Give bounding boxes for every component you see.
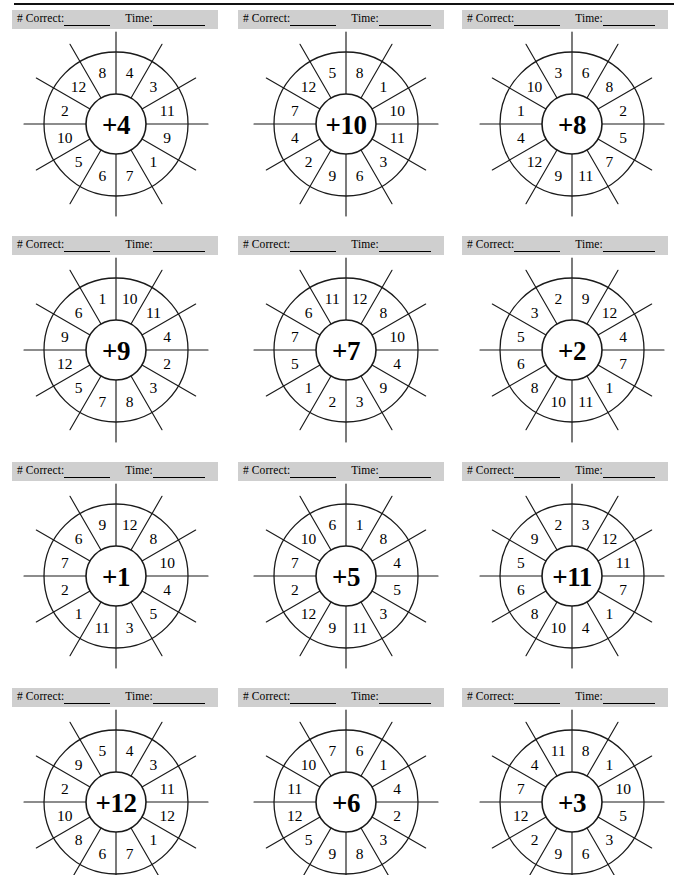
wheel-sector-number: 8: [531, 379, 539, 396]
wheel-sector-number: 3: [126, 619, 134, 636]
time-answer-blank[interactable]: [153, 13, 205, 26]
wheel-sector-number: 6: [356, 742, 364, 759]
wheel-sector-number: 11: [390, 129, 405, 146]
correct-answer-blank[interactable]: [64, 13, 110, 26]
wheel-sector-number: 4: [291, 129, 299, 146]
time-answer-blank[interactable]: [153, 239, 205, 252]
score-band-text: # Correct: Time:: [238, 239, 431, 252]
correct-answer-blank[interactable]: [514, 691, 560, 704]
time-answer-blank[interactable]: [603, 691, 655, 704]
wheel-sector-number: 6: [517, 581, 525, 598]
wheel-panel: # Correct: Time: 431191765102128+4: [0, 0, 232, 226]
wheel-sector-number: 6: [517, 355, 525, 372]
wheel-sector-number: 5: [393, 581, 401, 598]
worksheet-page: # Correct: Time: 431191765102128+4# Corr…: [0, 0, 686, 875]
wheel-plus-2: 912471111086532+2: [458, 254, 686, 452]
wheel-sector-number: 10: [389, 328, 405, 345]
wheel-sector-number: 6: [582, 845, 590, 862]
wheel-panel: # Correct: Time: 614238951211107+6: [232, 678, 458, 875]
correct-answer-blank[interactable]: [514, 239, 560, 252]
wheel-plus-4: 431191765102128+4: [2, 28, 230, 226]
time-answer-blank[interactable]: [603, 239, 655, 252]
wheel-sector-number: 1: [150, 831, 158, 848]
wheel-sector-number: 2: [305, 153, 313, 170]
correct-label: # Correct:: [243, 239, 290, 251]
correct-answer-blank[interactable]: [64, 239, 110, 252]
wheel-sector-number: 1: [98, 290, 106, 307]
wheel-sector-number: 9: [380, 379, 388, 396]
wheel-sector-number: 11: [287, 780, 302, 797]
time-answer-blank[interactable]: [603, 13, 655, 26]
wheel-operator: +7: [332, 336, 360, 366]
correct-label: # Correct:: [243, 465, 290, 477]
wheel-operator: +9: [102, 336, 130, 366]
correct-answer-blank[interactable]: [514, 13, 560, 26]
wheel-sector-number: 9: [531, 530, 539, 547]
wheel-plus-1: 128104531112769+1: [2, 480, 230, 678]
wheel-sector-number: 2: [554, 290, 562, 307]
wheel-sector-number: 9: [582, 290, 590, 307]
wheel-sector-number: 3: [356, 393, 364, 410]
wheel-sector-number: 1: [380, 78, 388, 95]
wheel-sector-number: 1: [356, 516, 364, 533]
wheel-sector-number: 7: [328, 742, 336, 759]
score-band-text: # Correct: Time:: [238, 691, 431, 704]
band-spacer: [560, 691, 575, 703]
wheel-sector-number: 10: [122, 290, 138, 307]
wheel-panel: # Correct: Time: 312117141086592+11: [458, 452, 686, 678]
wheel-sector-number: 12: [527, 153, 543, 170]
wheel-sector-number: 7: [291, 102, 299, 119]
wheel-sector-number: 12: [602, 530, 618, 547]
correct-label: # Correct:: [243, 13, 290, 25]
correct-answer-blank[interactable]: [514, 465, 560, 478]
wheel-sector-number: 8: [380, 304, 388, 321]
time-answer-blank[interactable]: [603, 465, 655, 478]
wheel-sector-number: 9: [328, 167, 336, 184]
correct-answer-blank[interactable]: [290, 13, 336, 26]
wheel-graphic-wrap: 682571191241103+8: [458, 28, 686, 226]
correct-answer-blank[interactable]: [290, 465, 336, 478]
wheel-sector-number: 6: [356, 167, 364, 184]
wheel-sector-number: 9: [61, 328, 69, 345]
wheel-sector-number: 2: [61, 581, 69, 598]
score-band-text: # Correct: Time:: [12, 465, 205, 478]
time-answer-blank[interactable]: [379, 691, 431, 704]
band-spacer: [560, 13, 575, 25]
wheel-sector-number: 5: [619, 129, 627, 146]
wheel-sector-number: 9: [98, 516, 106, 533]
wheel-sector-number: 11: [352, 619, 367, 636]
wheel-sector-number: 5: [305, 831, 313, 848]
time-answer-blank[interactable]: [153, 691, 205, 704]
wheel-sector-number: 11: [160, 102, 175, 119]
time-label: Time:: [575, 13, 603, 25]
wheel-sector-number: 2: [554, 516, 562, 533]
wheel-sector-number: 7: [61, 554, 69, 571]
correct-answer-blank[interactable]: [64, 691, 110, 704]
wheel-operator: +1: [102, 562, 130, 592]
wheel-graphic-wrap: 128104531112769+1: [0, 480, 232, 678]
wheel-sector-number: 11: [578, 167, 593, 184]
correct-answer-blank[interactable]: [64, 465, 110, 478]
wheel-panel: # Correct: Time: 184531191227106+5: [232, 452, 458, 678]
correct-answer-blank[interactable]: [290, 691, 336, 704]
time-label: Time:: [125, 13, 153, 25]
correct-label: # Correct:: [17, 13, 64, 25]
wheel-sector-number: 7: [126, 167, 134, 184]
time-answer-blank[interactable]: [379, 465, 431, 478]
score-band-text: # Correct: Time:: [462, 13, 655, 26]
wheel-sector-number: 1: [606, 379, 614, 396]
wheel-panel: # Correct: Time: 101142387512961+9: [0, 226, 232, 452]
wheel-sector-number: 6: [582, 64, 590, 81]
correct-answer-blank[interactable]: [290, 239, 336, 252]
wheel-sector-number: 10: [159, 554, 175, 571]
wheel-graphic-wrap: 912471111086532+2: [458, 254, 686, 452]
time-label: Time:: [125, 465, 153, 477]
wheel-panel: # Correct: Time: 682571191241103+8: [458, 0, 686, 226]
wheel-sector-number: 10: [301, 756, 317, 773]
wheel-graphic-wrap: 614238951211107+6: [232, 706, 458, 875]
wheel-sector-number: 4: [126, 64, 134, 81]
time-answer-blank[interactable]: [379, 239, 431, 252]
time-answer-blank[interactable]: [153, 465, 205, 478]
time-answer-blank[interactable]: [379, 13, 431, 26]
wheel-sector-number: 1: [305, 379, 313, 396]
